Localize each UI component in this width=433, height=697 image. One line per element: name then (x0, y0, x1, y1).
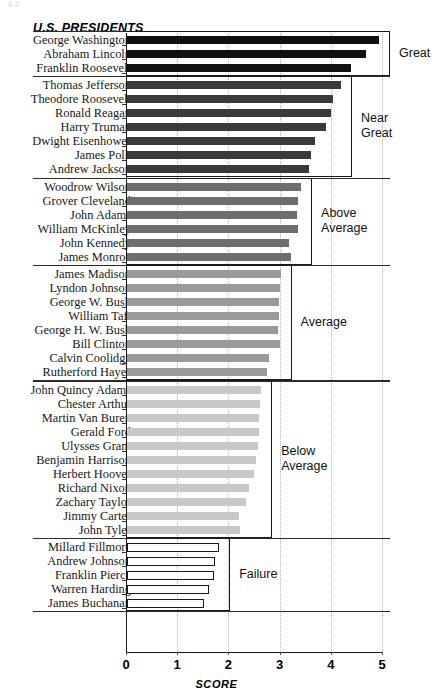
y-tick (122, 160, 126, 161)
y-tick (122, 45, 126, 46)
bar-label: John Kennedy (0, 236, 131, 250)
chart-row: James Buchanan (0, 596, 433, 610)
bar-label: Richard Nixon (0, 481, 131, 495)
y-tick (122, 437, 126, 438)
bar-label: Zachary Taylor (0, 495, 131, 509)
bar-label: Gerald Ford (0, 425, 131, 439)
bar-label: Warren Harding (0, 582, 131, 596)
group-label: Above Average (321, 206, 367, 236)
bar (127, 109, 331, 117)
y-tick (122, 535, 126, 536)
bar-label: Calvin Coolidge (0, 351, 131, 365)
bar (127, 50, 366, 58)
y-tick (122, 552, 126, 553)
chart-row: John Kennedy (0, 236, 433, 250)
bar (127, 165, 309, 173)
y-tick (122, 423, 126, 424)
bar (127, 442, 258, 450)
bar (127, 571, 214, 580)
y-tick (122, 451, 126, 452)
bar (127, 253, 291, 261)
bar (127, 400, 260, 408)
y-tick (122, 594, 126, 595)
chart-row: Herbert Hoover (0, 467, 433, 481)
bar (127, 284, 280, 292)
group-label: Average (301, 315, 347, 330)
chart-row: Bill Clinton (0, 337, 433, 351)
bar-label: Rutherford Hayes (0, 365, 131, 379)
y-tick (122, 146, 126, 147)
bar (127, 543, 219, 552)
bar (127, 123, 326, 131)
y-tick (122, 293, 126, 294)
bar-label: Lyndon Johnson (0, 281, 131, 295)
x-tick-5 (382, 652, 383, 655)
chart-row: Franklin Roosevelt (0, 61, 433, 75)
y-tick (122, 395, 126, 396)
bar-label: Andrew Johnson (0, 554, 131, 568)
chart-row: Theodore Roosevelt (0, 92, 433, 106)
bar-label: Martin Van Buren (0, 411, 131, 425)
bar-label: George W. Bush (0, 295, 131, 309)
bar-label: Dwight Eisenhower (0, 134, 131, 148)
bar-label: John Tyler (0, 523, 131, 537)
group-separator (33, 76, 390, 77)
group-separator (33, 31, 390, 32)
chart-plot-area: 012345George WashingtonAbraham LincolnFr… (0, 0, 433, 697)
group-separator (33, 265, 390, 266)
bar (127, 599, 204, 608)
chart-row: Benjamin Harrison (0, 453, 433, 467)
bar-label: William McKinley (0, 222, 131, 236)
x-tick-label-2: 2 (225, 657, 232, 672)
bar-label: Herbert Hoover (0, 467, 131, 481)
bar-label: Benjamin Harrison (0, 453, 131, 467)
y-tick (122, 580, 126, 581)
chart-row: Calvin Coolidge (0, 351, 433, 365)
y-tick (122, 335, 126, 336)
x-tick-label-3: 3 (276, 657, 283, 672)
y-tick (122, 248, 126, 249)
chart-row: Zachary Taylor (0, 495, 433, 509)
bar-label: Jimmy Carter (0, 509, 131, 523)
y-tick (122, 234, 126, 235)
chart-row: Ulysses Grant (0, 439, 433, 453)
chart-row: James Polk (0, 148, 433, 162)
chart-row: Woodrow Wilson (0, 180, 433, 194)
x-tick-label-1: 1 (174, 657, 181, 672)
bar-label: Andrew Jackson (0, 162, 131, 176)
bar (127, 312, 279, 320)
chart-row: William Taft (0, 309, 433, 323)
bar (127, 64, 351, 72)
bar-label: John Quincy Adams (0, 383, 131, 397)
bar-label: Theodore Roosevelt (0, 92, 131, 106)
group-separator (33, 178, 390, 179)
chart-row: William McKinley (0, 222, 433, 236)
bar (127, 151, 311, 159)
y-tick (122, 262, 126, 263)
y-tick (122, 174, 126, 175)
y-tick (122, 566, 126, 567)
bar-label: Bill Clinton (0, 337, 131, 351)
chart-row: James Madison (0, 267, 433, 281)
chart-row: John Tyler (0, 523, 433, 537)
chart-row: George W. Bush (0, 295, 433, 309)
bar-label: James Madison (0, 267, 131, 281)
group-separator (33, 538, 390, 539)
chart-row: George H. W. Bush (0, 323, 433, 337)
y-tick (122, 493, 126, 494)
y-tick (122, 409, 126, 410)
y-tick (122, 132, 126, 133)
bar-label: Woodrow Wilson (0, 180, 131, 194)
chart-row: John Quincy Adams (0, 383, 433, 397)
chart-row: Martin Van Buren (0, 411, 433, 425)
bar (127, 239, 289, 247)
bar-label: James Monroe (0, 250, 131, 264)
bar-label: James Polk (0, 148, 131, 162)
group-label: Near Great (361, 111, 392, 141)
y-tick (122, 363, 126, 364)
x-tick-4 (331, 652, 332, 655)
y-tick (122, 521, 126, 522)
bar (127, 386, 261, 394)
bar-label: William Taft (0, 309, 131, 323)
y-tick (122, 220, 126, 221)
